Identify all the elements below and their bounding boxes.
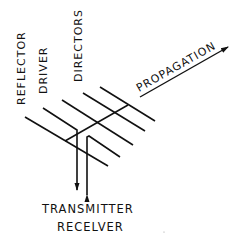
reflector-label: REFLECTOR [15,31,28,105]
propagation-label: PROPAGATION [134,39,218,94]
scan-speck [163,231,164,232]
directors-label: DIRECTORS [72,9,85,82]
driver-label: DRIVER [37,47,50,94]
receiver-label: RECELVER [57,220,124,234]
driver-element-left [43,108,77,190]
transmitter-label: TRANSMITTER [41,202,134,216]
driver-element-right [87,136,120,195]
yagi-antenna-diagram: REFLECTOR DRIVER DIRECTORS PROPAGATION T… [0,0,235,241]
